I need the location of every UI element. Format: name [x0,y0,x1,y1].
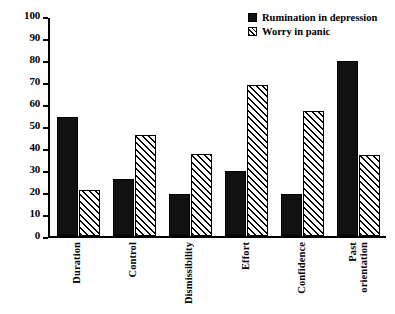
bar-rumination [225,171,246,236]
bars-layer [50,18,386,236]
bar-rumination [169,194,190,236]
y-axis-tick-label: 100 [24,10,40,21]
bar-group [113,18,156,236]
bar-worry [359,155,380,236]
bar-rumination [57,117,78,236]
legend-item-label: Worry in panic [262,26,330,37]
bar-worry [191,154,212,237]
x-axis-label: Dismissibility [166,240,211,314]
legend-item: Worry in panic [248,26,377,37]
y-axis-tick-label: 90 [29,32,40,43]
chart-legend: Rumination in depressionWorry in panic [248,12,377,37]
bar-group [337,18,380,236]
x-axis-label-text: Confidence [296,242,307,294]
y-axis-tick-label: 10 [29,208,40,219]
bar-group [281,18,324,236]
y-axis-tick-label: 30 [29,164,40,175]
bar-chart: 0102030405060708090100 DurationControlDi… [0,0,395,314]
legend-item: Rumination in depression [248,12,377,23]
bar-rumination [281,194,302,236]
x-axis-label-text: Dismissibility [183,242,194,304]
x-axis-label: Past orientation [335,240,380,314]
y-axis-tick-label: 80 [29,54,40,65]
legend-swatch-hatch-icon [248,27,257,36]
y-axis-tick-label: 50 [29,120,40,131]
y-axis-tick-label: 40 [29,142,40,153]
bar-rumination [113,179,134,236]
x-axis-label: Control [110,240,155,314]
y-axis-tick-label: 20 [29,186,40,197]
y-axis-tick-label: 0 [35,230,40,241]
x-axis: DurationControlDismissibilityEffortConfi… [48,240,386,314]
x-axis-label-text: Effort [240,242,251,270]
x-axis-label-text: Control [127,242,138,278]
bar-group [57,18,100,236]
x-axis-label-text: Past orientation [347,242,369,293]
bar-group [225,18,268,236]
bar-group [169,18,212,236]
legend-swatch-solid-icon [248,13,257,22]
bar-worry [79,190,100,236]
x-axis-label: Effort [223,240,268,314]
y-axis-tick-label: 60 [29,98,40,109]
y-axis-tick-label: 70 [29,76,40,87]
plot-area [48,18,386,238]
x-axis-label-text: Duration [71,242,82,284]
bar-worry [247,85,268,236]
bar-rumination [337,61,358,236]
x-axis-label: Confidence [279,240,324,314]
x-axis-label: Duration [54,240,99,314]
bar-worry [303,111,324,236]
y-axis: 0102030405060708090100 [0,18,48,238]
legend-item-label: Rumination in depression [262,12,377,23]
bar-worry [135,135,156,236]
